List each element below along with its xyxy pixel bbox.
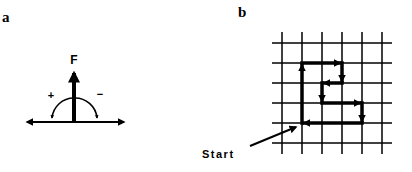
start-label: Start [202,148,235,160]
panel-a-diagram: F + − [27,53,124,123]
traced-path [302,63,362,123]
force-label: F [70,53,77,67]
rotation-arc-plus [52,98,74,118]
figure-canvas: F + − Start [0,0,412,172]
plus-label: + [48,89,54,101]
grid [272,32,392,154]
minus-label: − [97,88,103,100]
rotation-arc-minus [74,98,97,118]
